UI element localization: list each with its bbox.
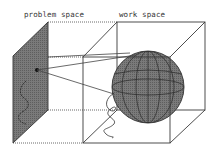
problem-work-space-diagram: [0, 0, 220, 158]
sphere: [112, 51, 184, 123]
problem-space-panel: [13, 22, 48, 143]
